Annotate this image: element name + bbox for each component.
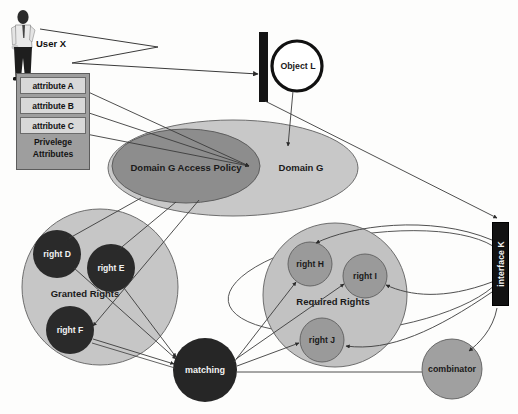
right-i-label: right I: [353, 271, 377, 281]
combinator-label: combinator: [428, 364, 476, 374]
right-f-label: right F: [57, 325, 84, 335]
interface-k-label: interface K: [496, 241, 506, 287]
object-l-bar: [259, 32, 268, 102]
privilege-attributes-caption: Privelege Attributes: [20, 137, 86, 160]
privilege-attributes-panel: attribute A attribute B attribute C Priv…: [16, 73, 90, 170]
object-l-label: Object L: [280, 61, 316, 71]
user-x-label: User X: [36, 38, 66, 49]
diagram-canvas: Domain G Domain G Access Policy Granted …: [0, 0, 518, 414]
right-d-label: right D: [43, 249, 71, 259]
person-icon: [12, 10, 36, 81]
right-j-label: right J: [309, 335, 335, 345]
interface-k-to-combinator: [469, 308, 497, 351]
access-control-diagram: Domain G Domain G Access Policy Granted …: [0, 0, 518, 414]
domain-g-access-policy-label: Domain G Access Policy: [130, 162, 242, 173]
right-h-label: right H: [296, 259, 324, 269]
interface-k-bar[interactable]: interface K: [492, 222, 509, 306]
user-to-object-zigzag: [40, 29, 258, 74]
matching-label: matching: [185, 365, 225, 375]
right-e-label: right E: [97, 263, 124, 273]
domain-g-label: Domain G: [279, 162, 324, 173]
attribute-a-box[interactable]: attribute A: [20, 77, 86, 94]
privilege-attributes-caption-line1: Privelege: [20, 137, 86, 149]
attribute-b-box[interactable]: attribute B: [20, 97, 86, 114]
privilege-attributes-caption-line2: Attributes: [20, 149, 86, 161]
attribute-c-box[interactable]: attribute C: [20, 117, 86, 134]
